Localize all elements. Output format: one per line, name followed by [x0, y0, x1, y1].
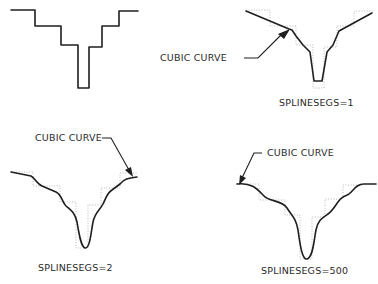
cubic-curve — [246, 11, 372, 81]
cubic-curve — [11, 172, 137, 248]
splinesegs-label: SPLINESEGS=1 — [279, 97, 354, 108]
control-frame — [11, 172, 137, 248]
splinesegs-label: SPLINESEGS=500 — [261, 265, 348, 276]
callout-leader — [242, 153, 262, 178]
callout-leader — [244, 34, 282, 58]
callout-leader — [102, 138, 129, 170]
splinesegs-diagram: CUBIC CURVE SPLINESEGS=1 CUBIC CURVE SPL… — [0, 0, 378, 284]
panel-control-polyline — [11, 10, 138, 88]
arrow-icon — [278, 29, 290, 39]
cubic-curve — [237, 184, 376, 259]
splinesegs-label: SPLINESEGS=2 — [38, 262, 113, 273]
control-frame — [237, 184, 362, 259]
callout-label: CUBIC CURVE — [35, 132, 102, 143]
panel-splinesegs-500: CUBIC CURVE SPLINESEGS=500 — [237, 147, 376, 276]
control-polyline — [11, 10, 138, 88]
panel-splinesegs-2: CUBIC CURVE SPLINESEGS=2 — [11, 132, 137, 273]
panel-splinesegs-1: CUBIC CURVE SPLINESEGS=1 — [160, 10, 373, 108]
callout-label: CUBIC CURVE — [160, 52, 227, 63]
callout-label: CUBIC CURVE — [267, 147, 334, 158]
control-frame — [246, 10, 373, 88]
arrow-icon — [125, 167, 133, 177]
